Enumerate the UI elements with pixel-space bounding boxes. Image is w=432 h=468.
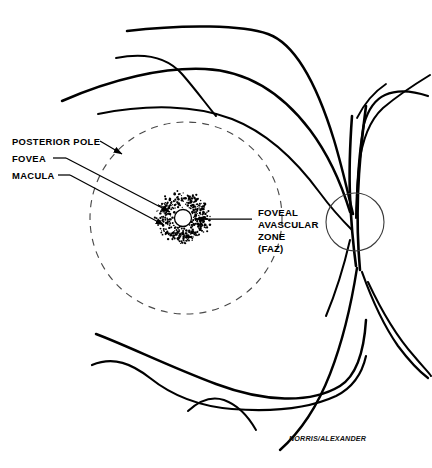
stipple-dot xyxy=(155,217,157,219)
stipple-dot xyxy=(173,200,175,202)
stipple-dot xyxy=(166,212,168,214)
stipple-dot xyxy=(169,204,171,206)
stipple-dot xyxy=(181,199,184,202)
stipple-dot xyxy=(197,204,198,205)
label-faz-line3: ZONE xyxy=(258,231,286,242)
stipple-dot xyxy=(176,190,178,192)
stipple-dot xyxy=(161,230,162,231)
stipple-dot xyxy=(189,207,190,208)
stipple-dot xyxy=(190,207,192,209)
stipple-dot xyxy=(178,229,180,231)
stipple-dot xyxy=(202,206,204,208)
macula-leader-line xyxy=(70,175,164,225)
stipple-dot xyxy=(188,240,190,242)
stipple-dot xyxy=(200,203,202,205)
stipple-dot xyxy=(176,201,178,203)
stipple-dot xyxy=(169,224,171,226)
stipple-dot xyxy=(170,226,172,228)
stipple-dot xyxy=(172,236,174,238)
stipple-dot xyxy=(186,202,188,204)
stipple-dot xyxy=(160,232,162,234)
stipple-dot xyxy=(172,222,174,224)
stipple-dot xyxy=(165,228,167,230)
fovea-leader-line xyxy=(66,158,170,212)
stipple-dot xyxy=(168,227,170,229)
stipple-dot xyxy=(172,204,173,205)
stipple-dot xyxy=(171,201,172,202)
stipple-dot xyxy=(165,232,167,234)
stipple-dot xyxy=(174,207,175,208)
stipple-dot xyxy=(178,202,180,204)
leader-line-group xyxy=(53,141,252,225)
stipple-dot xyxy=(168,206,170,208)
stipple-dot xyxy=(169,234,172,237)
stipple-dot xyxy=(183,236,185,238)
stipple-dot xyxy=(184,242,186,244)
stipple-dot xyxy=(177,237,179,239)
stipple-dot xyxy=(179,204,181,206)
stipple-dot xyxy=(162,216,164,218)
stipple-dot xyxy=(187,199,188,200)
stipple-dot xyxy=(199,208,201,210)
stipple-dot xyxy=(195,219,197,221)
stipple-dot xyxy=(156,211,157,212)
stipple-dot xyxy=(166,218,168,220)
stipple-dot xyxy=(169,197,170,198)
vessel-superior-arcade-outer xyxy=(127,26,353,214)
stipple-dot xyxy=(170,218,172,220)
stipple-dot xyxy=(187,230,188,231)
stipple-dot xyxy=(167,205,169,207)
stipple-dot xyxy=(163,203,164,204)
stipple-dot xyxy=(195,223,197,225)
stipple-dot xyxy=(199,203,201,205)
stipple-dot xyxy=(186,235,189,238)
stipple-dot xyxy=(182,231,184,233)
stipple-dot xyxy=(177,227,179,229)
stipple-dot xyxy=(183,197,185,199)
stipple-dot xyxy=(162,234,164,236)
stipple-dot xyxy=(165,198,167,200)
optic-disc-circle xyxy=(326,193,384,251)
stipple-dot xyxy=(157,210,158,211)
vessel-disc-trunk-right xyxy=(358,106,366,270)
vessel-inferior-temporal-far xyxy=(368,282,431,376)
stipple-dot xyxy=(207,210,209,212)
stipple-dot xyxy=(162,211,163,212)
stipple-dot xyxy=(206,226,208,228)
stipple-dot xyxy=(203,204,205,206)
stipple-dot xyxy=(178,232,180,234)
vessel-temporal-upper-cross xyxy=(356,75,430,218)
label-faz-line2: AVASCULAR xyxy=(258,219,319,230)
stipple-dot xyxy=(193,196,195,198)
faz-clear-circle xyxy=(175,210,192,227)
stipple-dot xyxy=(183,228,185,230)
stipple-dot xyxy=(192,219,194,221)
label-posterior-pole: POSTERIOR POLE xyxy=(12,136,100,147)
stipple-dot xyxy=(174,198,176,200)
stipple-dot xyxy=(203,221,205,223)
stipple-dot xyxy=(192,228,194,230)
stipple-dot xyxy=(192,236,194,238)
stipple-dot xyxy=(175,233,178,236)
stipple-dot xyxy=(209,223,212,226)
stipple-dot xyxy=(161,219,163,221)
vessel-temporal-upper-branch xyxy=(357,91,428,196)
stipple-dot xyxy=(169,222,171,224)
stipple-dot xyxy=(194,232,196,234)
stipple-dot xyxy=(181,227,183,229)
stipple-dot xyxy=(174,192,176,194)
stipple-dot xyxy=(164,195,166,197)
stipple-dot xyxy=(204,224,206,226)
stipple-dot xyxy=(161,216,163,218)
posterior-pole-leader-line xyxy=(100,141,122,154)
stipple-dot xyxy=(174,227,176,229)
vessel-inferior-nasal-branch xyxy=(188,398,256,430)
stipple-dot xyxy=(197,198,199,200)
stipple-dot xyxy=(159,212,161,214)
label-fovea: FOVEA xyxy=(12,153,46,164)
stipple-dot xyxy=(202,212,204,214)
stipple-dot xyxy=(182,207,183,208)
stipple-dot xyxy=(199,227,201,229)
retinal-fundus-diagram: POSTERIOR POLE FOVEA MACULA FOVEAL AVASC… xyxy=(0,0,432,468)
stipple-dot xyxy=(173,225,174,226)
